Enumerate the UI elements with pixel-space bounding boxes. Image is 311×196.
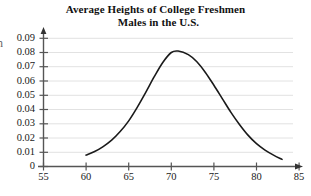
x-axis-tick-label: 75 [202,172,226,182]
chart-plot-area [0,0,311,196]
x-axis-tick-label: 55 [32,172,56,182]
x-axis-tick-label: 80 [245,172,269,182]
y-axis-tick-label: 0.02 [3,133,35,143]
y-axis-tick-label: 0.08 [3,47,35,57]
x-axis-tick-label: 70 [159,172,183,182]
y-axis-arrowhead [41,27,47,34]
y-axis-tick-label: 0.04 [3,104,35,114]
x-axis-tick-label: 60 [74,172,98,182]
x-axis-tick-label: 85 [287,172,311,182]
y-axis-tick-label: 0.03 [3,118,35,128]
y-axis-tick-label: 0.09 [3,33,35,43]
y-axis-tick-label: 0.06 [3,76,35,86]
y-axis-tick-label: 0.07 [3,61,35,71]
y-axis-tick-label: 0.01 [3,147,35,157]
chart-figure: n Average Heights of College Freshmen Ma… [0,0,311,196]
x-axis-tick-label: 65 [117,172,141,182]
y-axis-tick-label: 0 [3,161,35,171]
y-axis-tick-label: 0.05 [3,90,35,100]
